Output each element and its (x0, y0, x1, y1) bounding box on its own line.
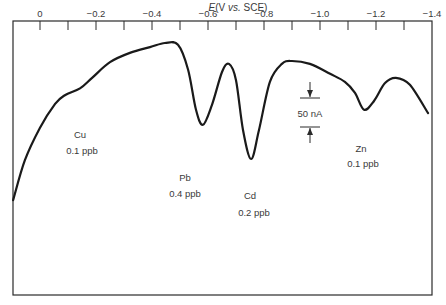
x-tick-label: −1.4 (423, 8, 442, 19)
zn-concentration: 0.1 ppb (347, 158, 379, 169)
x-tick-label: −0.8 (255, 8, 274, 19)
cu-concentration: 0.1 ppb (66, 145, 98, 156)
cd-concentration: 0.2 ppb (238, 207, 270, 218)
x-tick-label: −1.2 (367, 8, 386, 19)
x-tick-label: −0.2 (87, 8, 106, 19)
x-tick-label: 0 (37, 8, 42, 19)
scale-bar-label: 50 nA (298, 108, 323, 119)
pb-label: Pb (179, 172, 191, 183)
zn-label: Zn (355, 143, 366, 154)
cd-label: Cd (244, 190, 256, 201)
x-tick-label: −0.4 (143, 8, 162, 19)
x-ticks (40, 21, 404, 30)
x-tick-label: −1.0 (311, 8, 330, 19)
voltammogram-chart: E(V vs. SCE) 0−0.2−0.4−0.6−0.8−1.0−1.2−1… (0, 0, 446, 305)
voltammogram-curve (13, 42, 428, 200)
cu-label: Cu (74, 129, 86, 140)
x-tick-label: −0.6 (199, 8, 218, 19)
pb-concentration: 0.4 ppb (169, 188, 201, 199)
